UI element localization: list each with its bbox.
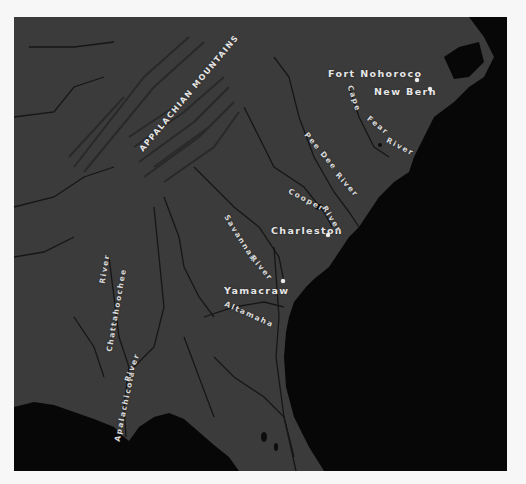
- city-marker-new-bern: [428, 87, 432, 91]
- city-label-yamacraw: Yamacraw: [224, 285, 289, 296]
- map-frame: APPALACHIAN MOUNTAINS Fort Nohoroco New …: [14, 17, 507, 471]
- city-marker-yamacraw: [281, 279, 285, 283]
- city-marker-charleston: [326, 233, 330, 237]
- city-marker-fort-nohoroco: [415, 78, 419, 82]
- city-label-fort-nohoroco: Fort Nohoroco: [328, 68, 423, 79]
